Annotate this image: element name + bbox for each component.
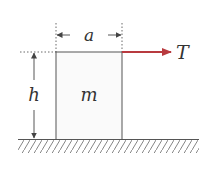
force-label: T bbox=[176, 41, 190, 63]
width-label: a bbox=[84, 25, 94, 45]
ground bbox=[18, 140, 199, 154]
mass-label: m bbox=[80, 84, 97, 105]
ground-hatch bbox=[18, 140, 199, 153]
block-diagram: a h m T bbox=[0, 0, 220, 176]
height-label: h bbox=[28, 84, 40, 105]
